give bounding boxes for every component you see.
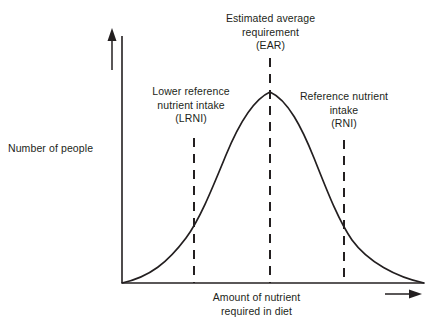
nutrient-requirement-distribution-figure: Estimated average requirement (EAR) Lowe…	[0, 0, 439, 331]
x-axis-label: Amount of nutrient required in diet	[190, 291, 323, 318]
annotation-label-rni: Reference nutrient intake (RNI)	[285, 90, 403, 131]
annotation-label-lrni: Lower reference nutrient intake (LRNI)	[131, 85, 251, 126]
y-axis-label: Number of people	[8, 142, 130, 156]
arrow-right-icon	[385, 290, 422, 299]
arrow-up-icon	[108, 28, 117, 70]
annotation-label-ear: Estimated average requirement (EAR)	[198, 12, 343, 53]
